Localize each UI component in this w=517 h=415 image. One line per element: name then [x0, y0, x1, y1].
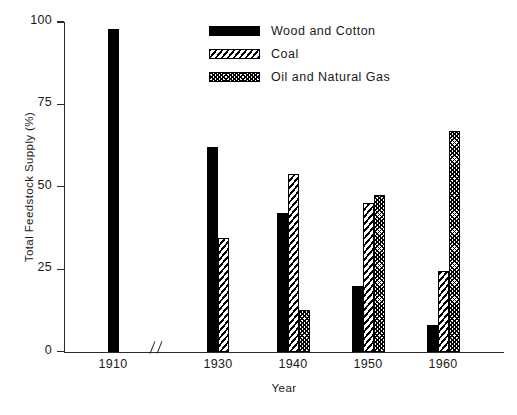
bar-1940-coal — [288, 174, 299, 352]
y-tick-75 — [57, 104, 64, 105]
bar-1950-coal — [363, 203, 374, 351]
bar-chart-figure: Total Feedstock Supply (%) 0255075100 19… — [0, 0, 517, 415]
y-axis-line — [64, 22, 65, 353]
x-tick-label-1950: 1950 — [338, 357, 398, 371]
legend-label: Oil and Natural Gas — [271, 68, 390, 87]
x-axis-line — [64, 352, 504, 353]
legend-swatch-hatch-icon — [209, 49, 260, 59]
legend-label: Wood and Cotton — [271, 22, 376, 41]
legend-swatch-cross-icon — [209, 72, 260, 82]
legend-swatch-solid-icon — [209, 26, 260, 36]
bar-1950-oil-and-natural-gas — [374, 195, 385, 352]
y-tick-label-75: 75 — [8, 95, 52, 109]
x-tick-label-1960: 1960 — [413, 357, 473, 371]
legend-item-coal: Coal — [209, 45, 449, 68]
chart-legend: Wood and CottonCoalOil and Natural Gas — [209, 22, 449, 91]
bar-1930-wood-and-cotton — [207, 147, 218, 351]
bar-1930-coal — [218, 238, 229, 352]
y-tick-label-50: 50 — [8, 178, 52, 192]
x-tick-label-1910: 1910 — [83, 357, 143, 371]
bar-1960-wood-and-cotton — [427, 325, 438, 351]
bar-1960-coal — [438, 271, 449, 352]
legend-item-oil-and-natural-gas: Oil and Natural Gas — [209, 68, 449, 91]
y-tick-0 — [57, 351, 64, 352]
bar-1910-wood-and-cotton — [108, 29, 119, 352]
bar-1940-oil-and-natural-gas — [299, 310, 310, 351]
x-tick-label-1940: 1940 — [263, 357, 323, 371]
y-tick-50 — [57, 186, 64, 187]
y-tick-label-100: 100 — [8, 13, 52, 27]
x-axis-title: Year — [64, 382, 504, 394]
y-tick-25 — [57, 269, 64, 270]
x-tick-label-1930: 1930 — [188, 357, 248, 371]
bar-1950-wood-and-cotton — [352, 286, 363, 352]
y-tick-label-25: 25 — [8, 260, 52, 274]
bar-1940-wood-and-cotton — [277, 213, 288, 351]
y-tick-label-0: 0 — [8, 343, 52, 357]
legend-item-wood-and-cotton: Wood and Cotton — [209, 22, 449, 45]
bar-1960-oil-and-natural-gas — [449, 131, 460, 352]
legend-label: Coal — [271, 45, 299, 64]
axis-break-icon — [148, 341, 170, 355]
y-tick-100 — [57, 21, 64, 22]
